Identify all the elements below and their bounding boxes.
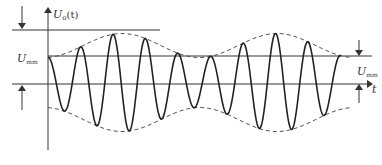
am-waveform-diagram: Uo(t) Umm Umm t [0, 0, 382, 165]
time-axis-label: t [372, 83, 377, 96]
y-axis-label: Uo(t) [53, 8, 78, 22]
envelope-upper [48, 34, 352, 58]
modulated-carrier-wave [48, 34, 341, 131]
right-level-label: Umm [357, 65, 378, 78]
diagram-canvas: Uo(t) Umm Umm t [0, 0, 382, 165]
left-level-label: Umm [17, 52, 38, 65]
